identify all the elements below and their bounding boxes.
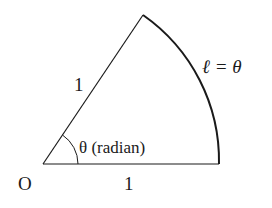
sector-arc [143, 15, 219, 164]
arc-length-label: ℓ = θ [202, 56, 242, 77]
angle-marker-arc [63, 135, 79, 164]
bottom-radius-label: 1 [124, 173, 134, 194]
upper-radius-label: 1 [74, 74, 84, 95]
origin-label: O [18, 173, 32, 194]
angle-label: θ (radian) [79, 138, 145, 157]
sector-diagram: O 1 1 θ (radian) ℓ = θ [0, 0, 272, 208]
